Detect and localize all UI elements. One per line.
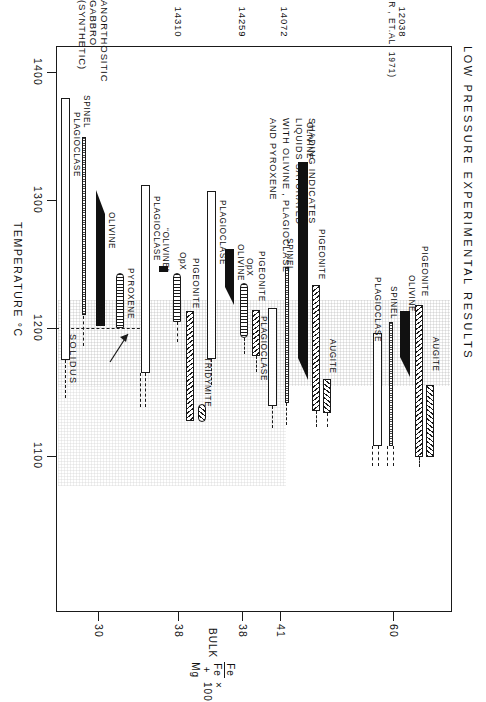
bar-label-pigeonite-col4: PIGEONITE	[420, 246, 429, 297]
col3-line1: 14072	[279, 0, 290, 44]
bar-spinel-col3	[285, 267, 289, 403]
xtick-60	[393, 612, 394, 621]
bar-label-spinel-col4: SPINEL	[389, 286, 398, 319]
bar-label-spinel-col3: SPINEL	[285, 238, 294, 271]
bar-opx-col1	[173, 273, 181, 322]
bar-label-augite-col3: AUGITE	[328, 339, 337, 374]
bar-label-pigeonite-col3: PIGEONITE	[317, 229, 326, 280]
bar-label-spinel-col0: SPINEL	[82, 95, 91, 128]
bar-label-olivine-col0: OLIVINE	[107, 212, 116, 249]
tail-plagioclase-col1	[145, 373, 146, 407]
bar-label-plagioclase-col0: PLAGIOCLASE	[72, 112, 81, 177]
bar-olivine-col4	[400, 311, 410, 357]
xtick-label-60: 60	[388, 624, 400, 638]
tail-pigeonite-col2	[256, 356, 257, 372]
bar-pyroxene-col0	[116, 273, 124, 328]
col0-line1: ANORTHOSITIC	[99, 0, 110, 44]
ytick-1300	[47, 200, 56, 201]
xtick-label-38a: 38	[173, 624, 185, 638]
olivine-wedge-col2	[225, 287, 234, 305]
tail-pigeonite-col4	[419, 457, 420, 467]
bar-olivine-col3	[298, 162, 308, 358]
col0-line2: GABBRO	[88, 0, 99, 44]
col0-line3: (SYNTHETIC)	[77, 0, 88, 44]
ytick-1200	[47, 328, 56, 329]
xtick-41	[280, 612, 281, 621]
bar-spinel-col0	[82, 137, 86, 315]
olivine-wedge-col0	[96, 190, 105, 214]
tail-opx-col2	[244, 338, 245, 354]
bar-plagioclase-col0	[61, 98, 70, 360]
bar-label-opx-col2: OpX	[245, 258, 254, 276]
fraction-numerator: Fe	[225, 662, 236, 678]
bar-label-pyroxene-col0: PYROXENE	[126, 268, 135, 319]
bulk-word: BULK	[208, 628, 219, 658]
temperature-axis-label: TEMPERATURE °C	[12, 222, 24, 338]
tail-plagioclase-col3	[272, 406, 273, 428]
col4-line1: 12038	[397, 0, 408, 78]
bar-opx-col2	[240, 283, 248, 338]
col2-line1: 14259	[237, 0, 248, 44]
tail-spinel-col0	[83, 316, 84, 346]
xtick-label-38b: 38	[237, 624, 249, 638]
column-header-14072: 14072	[279, 0, 290, 44]
column-header-14310: 14310	[173, 0, 184, 44]
tail-pigeonite-col3	[316, 411, 317, 427]
bar-spinel-col4	[389, 322, 393, 446]
ytick-label-1100: 1100	[32, 442, 44, 469]
page-title: LOW PRESSURE EXPERIMENTAL RESULTS	[462, 46, 474, 360]
times-100: × 100	[202, 682, 224, 702]
tail-plagioclase-col4	[378, 446, 379, 466]
bar-label-olivine-col1: “OLIVINE”	[161, 228, 170, 272]
bar-augite-col4	[426, 385, 434, 457]
column-header-14259: 14259	[237, 0, 248, 44]
bulk-ratio-axis-label: BULK Fe Fe + Mg × 100	[190, 628, 236, 702]
fraction-denominator: Fe + Mg	[190, 662, 225, 678]
tail-augite-col3	[327, 413, 328, 427]
bar-plagioclase-col2	[207, 191, 216, 359]
bar-label-pigeonite-col1: PIGEONITE	[191, 258, 200, 309]
ytick-label-1200: 1200	[32, 314, 44, 342]
tail-plagioclase-col2	[211, 359, 212, 385]
bar-label-opx-col1: OpX	[178, 252, 187, 270]
xtick-label-41: 41	[275, 624, 287, 638]
tail2-plagioclase-col1	[140, 373, 141, 407]
tail-plagioclase-col0	[65, 360, 66, 398]
olivine-wedge-col3	[298, 358, 308, 380]
tail-spinel-col3	[286, 403, 287, 425]
ytick-1100	[47, 456, 56, 457]
bar-label-olivine-col3: OLIVINE	[305, 122, 314, 159]
note-line-4: AND PYROXENE	[266, 118, 279, 273]
solidus-arrow	[108, 326, 134, 366]
saturation-shading-2	[58, 386, 286, 486]
col1-line1: 14310	[173, 0, 184, 44]
bar-label-olivine-col2: OLIVINE	[236, 244, 245, 281]
bar-olivine-col2	[225, 249, 234, 287]
col4-line2: (BIGGAR , ET.AL. 1971)	[386, 0, 397, 78]
ytick-1400	[47, 72, 56, 73]
bar-label-plagioclase-col3: PLAGIOCLASE	[259, 316, 268, 381]
bar-plagioclase-col4	[373, 333, 382, 446]
xtick-label-30: 30	[93, 624, 105, 638]
tail-spinel-col4	[393, 446, 394, 466]
olivine-wedge-col4	[400, 357, 410, 377]
bar-plagioclase-col3	[268, 308, 277, 406]
bar-label-augite-col4: AUGITE	[431, 337, 440, 372]
xtick-38a	[178, 612, 179, 621]
ytick-label-1400: 1400	[32, 58, 44, 86]
column-header-anorthositic-gabbro: ANORTHOSITIC GABBRO (SYNTHETIC)	[77, 0, 110, 44]
bar-label-plagioclase-col4: PLAGIOCLASE	[373, 277, 382, 342]
xtick-38b	[242, 612, 243, 621]
solidus-line	[56, 328, 150, 329]
bar-augite-col3	[323, 379, 331, 413]
tail2-spinel-col4	[387, 446, 388, 466]
fe-fraction: Fe Fe + Mg	[190, 662, 236, 678]
column-header-12038: 12038 (BIGGAR , ET.AL. 1971)	[386, 0, 408, 78]
tail2-plagioclase-col4	[372, 446, 373, 466]
bar-pigeonite-col3	[312, 285, 320, 411]
bar-pigeonite-col1	[186, 311, 194, 421]
bar-pigeonite-col4	[415, 305, 423, 457]
